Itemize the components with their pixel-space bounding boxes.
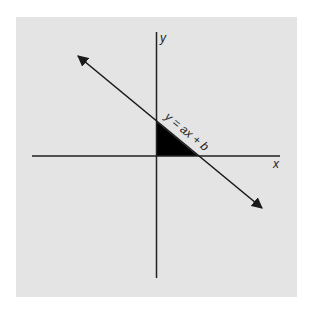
x-axis-label: x: [272, 157, 280, 171]
coordinate-diagram: y x y = ax + b: [0, 0, 313, 311]
y-axis-label: y: [159, 31, 167, 45]
line-y-equals-ax-plus-b: [78, 56, 262, 208]
